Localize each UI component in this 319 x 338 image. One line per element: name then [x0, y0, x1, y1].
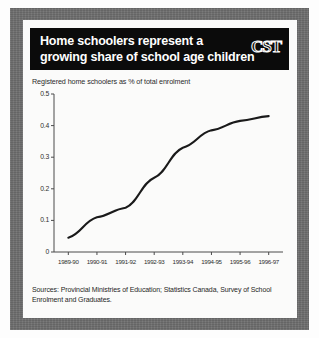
chart-subtitle: Registered home schoolers as % of total … — [32, 77, 190, 86]
chart-canvas: 00.10.20.30.40.51989-901990-911991-92199… — [32, 88, 289, 288]
chart-card: Home schoolers represent a growing share… — [23, 20, 297, 318]
x-axis-tick-label: 1993-94 — [173, 258, 194, 265]
screenshot-root: Home schoolers represent a growing share… — [0, 0, 319, 338]
y-axis-tick-label: 0.1 — [31, 216, 49, 223]
title-line-2: growing share of school age children — [40, 49, 236, 65]
x-axis-tick-label: 1995-96 — [230, 258, 251, 265]
cst-logo: CST — [251, 37, 281, 57]
y-axis-tick-label: 0 — [31, 248, 49, 255]
title-banner: Home schoolers represent a growing share… — [30, 28, 289, 70]
page-title: Home schoolers represent a growing share… — [40, 33, 236, 65]
y-axis-tick-label: 0.3 — [31, 153, 49, 160]
y-axis-tick-label: 0.5 — [31, 90, 49, 97]
source-note: Sources: Provincial Ministries of Educat… — [32, 285, 282, 305]
x-axis-tick-label: 1991-92 — [115, 258, 136, 265]
x-axis-tick-label: 1989-90 — [58, 258, 79, 265]
chart-plot-area: 00.10.20.30.40.51989-901990-911991-92199… — [32, 88, 289, 288]
x-axis-tick-label: 1996-97 — [258, 258, 279, 265]
x-axis-tick-label: 1992-93 — [144, 258, 165, 265]
x-axis-tick-label: 1990-91 — [87, 258, 108, 265]
x-axis-tick-label: 1994-95 — [201, 258, 222, 265]
y-axis-tick-label: 0.4 — [31, 122, 49, 129]
title-line-1: Home schoolers represent a — [40, 33, 236, 49]
y-axis-tick-label: 0.2 — [31, 185, 49, 192]
